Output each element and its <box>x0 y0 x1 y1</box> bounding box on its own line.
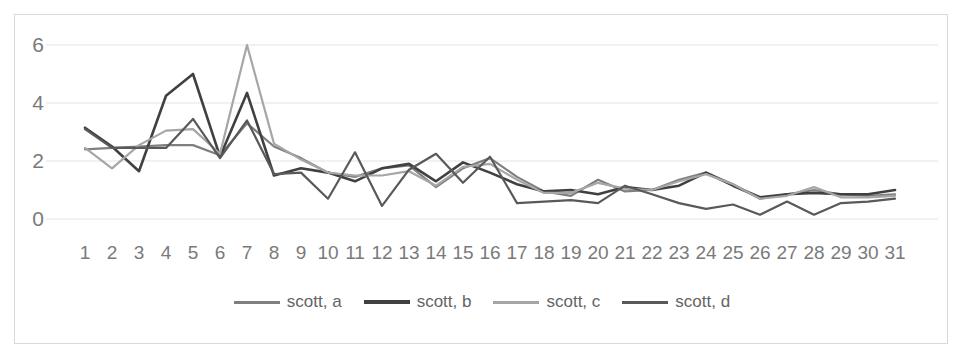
x-tick-label: 23 <box>666 243 692 262</box>
x-tick-label: 25 <box>720 243 746 262</box>
x-tick-label: 26 <box>747 243 773 262</box>
y-tick-label: 4 <box>18 92 44 113</box>
x-tick-label: 22 <box>639 243 665 262</box>
x-tick-label: 17 <box>504 243 530 262</box>
series-line-scott-d <box>85 119 895 215</box>
x-tick-label: 8 <box>261 243 287 262</box>
x-tick-label: 28 <box>801 243 827 262</box>
legend-item[interactable]: scott, b <box>364 292 472 312</box>
x-tick-label: 19 <box>558 243 584 262</box>
legend-item[interactable]: scott, c <box>493 292 600 312</box>
x-tick-label: 20 <box>585 243 611 262</box>
legend-label: scott, d <box>675 292 730 312</box>
legend-item[interactable]: scott, a <box>234 292 342 312</box>
x-tick-label: 1 <box>72 243 98 262</box>
series-line-scott-c <box>85 45 895 199</box>
x-tick-label: 7 <box>234 243 260 262</box>
x-tick-label: 13 <box>396 243 422 262</box>
x-tick-label: 11 <box>342 243 368 262</box>
legend-label: scott, c <box>546 292 600 312</box>
x-tick-label: 31 <box>882 243 908 262</box>
y-tick-label: 6 <box>18 34 44 55</box>
legend-color-swatch <box>364 300 410 304</box>
legend-color-swatch <box>622 301 668 304</box>
x-tick-label: 18 <box>531 243 557 262</box>
legend-label: scott, a <box>287 292 342 312</box>
x-tick-label: 5 <box>180 243 206 262</box>
legend-color-swatch <box>493 301 539 304</box>
x-tick-label: 4 <box>153 243 179 262</box>
x-tick-label: 21 <box>612 243 638 262</box>
x-tick-label: 27 <box>774 243 800 262</box>
x-tick-label: 14 <box>423 243 449 262</box>
x-tick-label: 24 <box>693 243 719 262</box>
y-tick-label: 2 <box>18 150 44 171</box>
x-tick-label: 3 <box>126 243 152 262</box>
x-tick-label: 2 <box>99 243 125 262</box>
x-tick-label: 12 <box>369 243 395 262</box>
chart-legend: scott, ascott, bscott, cscott, d <box>0 292 964 312</box>
x-tick-label: 29 <box>828 243 854 262</box>
legend-color-swatch <box>234 301 280 304</box>
x-tick-label: 10 <box>315 243 341 262</box>
x-tick-label: 6 <box>207 243 233 262</box>
x-tick-label: 15 <box>450 243 476 262</box>
legend-label: scott, b <box>417 292 472 312</box>
y-tick-label: 0 <box>18 208 44 229</box>
x-tick-label: 16 <box>477 243 503 262</box>
legend-item[interactable]: scott, d <box>622 292 730 312</box>
series-line-scott-b <box>85 74 895 197</box>
x-tick-label: 9 <box>288 243 314 262</box>
x-tick-label: 30 <box>855 243 881 262</box>
